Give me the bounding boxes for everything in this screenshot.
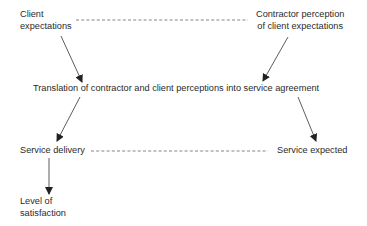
node-line: Client bbox=[20, 9, 72, 21]
arrow-translation-to-delivery bbox=[57, 97, 80, 141]
node-label: Service expected bbox=[277, 145, 347, 157]
node-level-of-satisfaction: Level of satisfaction bbox=[20, 196, 66, 219]
node-line: of client expectations bbox=[256, 21, 344, 33]
arrow-client-to-translation bbox=[61, 36, 82, 82]
node-line: expectations bbox=[20, 21, 72, 33]
node-label: Service delivery bbox=[20, 145, 85, 157]
node-client-expectations: Client expectations bbox=[20, 9, 72, 32]
node-service-delivery: Service delivery bbox=[20, 145, 85, 157]
diagram-edges bbox=[0, 0, 367, 226]
node-translation: Translation of contractor and client per… bbox=[33, 83, 319, 95]
node-line: Level of bbox=[20, 196, 66, 208]
arrow-translation-to-expected bbox=[298, 97, 316, 141]
node-label: Translation of contractor and client per… bbox=[33, 83, 319, 95]
node-service-expected: Service expected bbox=[277, 145, 347, 157]
arrow-contractor-to-translation bbox=[263, 37, 288, 81]
node-line: Contractor perception bbox=[256, 9, 344, 21]
node-line: satisfaction bbox=[20, 208, 66, 220]
node-contractor-perception: Contractor perception of client expectat… bbox=[256, 9, 344, 32]
